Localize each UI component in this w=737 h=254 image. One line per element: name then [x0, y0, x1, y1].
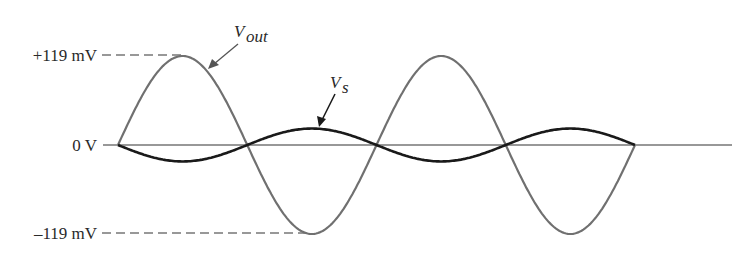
- vout-label-sub: out: [246, 27, 269, 46]
- vs-annotation: V s: [317, 73, 349, 127]
- vs-label-sub: s: [342, 78, 349, 97]
- pos-peak-label: +119 mV: [33, 46, 98, 65]
- zero-label: 0 V: [72, 136, 97, 155]
- neg-peak-label: –119 mV: [33, 224, 98, 243]
- vout-annotation: V out: [208, 22, 269, 69]
- vs-arrow-line: [322, 94, 335, 120]
- vout-arrow-line: [214, 44, 238, 64]
- vs-arrow-icon: [317, 116, 326, 127]
- waveform-diagram: +119 mV 0 V –119 mV V out V s: [0, 0, 737, 254]
